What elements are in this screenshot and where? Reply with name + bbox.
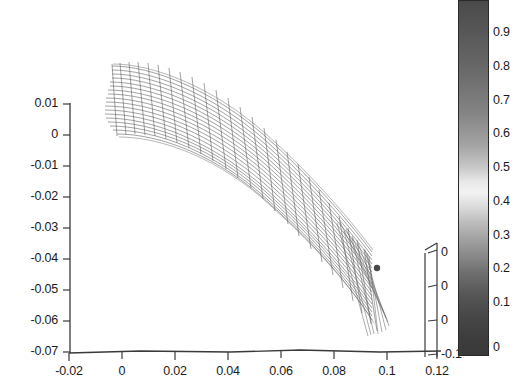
z-tick-label: 0 (441, 245, 448, 259)
y-tick-label: 0 (0, 127, 58, 141)
mesh-wireframe (105, 62, 389, 336)
colorbar-tick-label: 0.7 (493, 93, 510, 107)
x-tick-label: 0.08 (304, 364, 364, 378)
y-tick-label: -0.04 (0, 251, 58, 265)
z-tick-label: 0 (441, 279, 448, 293)
colorbar-tick-label: 0.8 (493, 59, 510, 73)
colorbar-tick-label: 0.4 (493, 194, 510, 208)
y-tick-label: -0.07 (0, 344, 58, 358)
colorbar-tick-label: 0.5 (493, 160, 510, 174)
y-tick-label: -0.03 (0, 220, 58, 234)
colorbar[interactable] (458, 0, 489, 356)
colorbar-tick-label: 0.2 (493, 261, 510, 275)
colorbar-gradient (459, 1, 488, 355)
y-tick-label: -0.02 (0, 189, 58, 203)
y-tick-label: -0.05 (0, 282, 58, 296)
y-tick-label: -0.01 (0, 158, 58, 172)
x-tick-label: 0 (92, 364, 152, 378)
z-tick-label: 0 (441, 313, 448, 327)
x-tick-label: -0.02 (39, 364, 99, 378)
colorbar-tick-label: 0.3 (493, 228, 510, 242)
colorbar-tick-label: 0.1 (493, 295, 510, 309)
x-tick-label: 0.12 (407, 364, 467, 378)
x-tick-label: 0.02 (145, 364, 205, 378)
x-tick-label: 0.04 (198, 364, 258, 378)
y-tick-label: -0.06 (0, 313, 58, 327)
colorbar-tick-label: 0.6 (493, 126, 510, 140)
x-tick-label: 0.06 (251, 364, 311, 378)
mesh-surface-plot (0, 0, 522, 392)
figure-canvas: 0.010-0.01-0.02-0.03-0.04-0.05-0.06-0.07… (0, 0, 522, 392)
y-tick-label: 0.01 (0, 96, 58, 110)
colorbar-tick-label: 0 (493, 340, 500, 354)
colorbar-tick-label: 0.9 (493, 25, 510, 39)
